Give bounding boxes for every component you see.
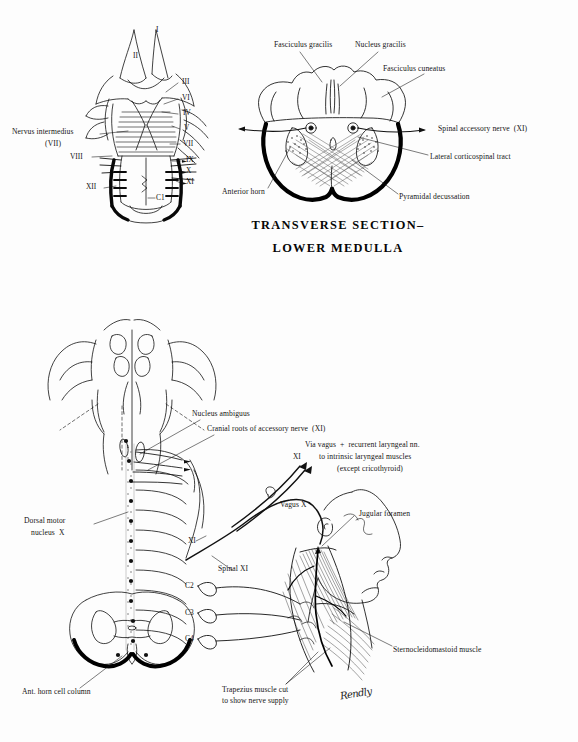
cn-label-III: III [182,77,189,86]
cn-label-I: I [156,25,158,34]
jugular-foramen-label: Jugular foramen [359,509,410,519]
ant-horn-cell-column-label: Ant. horn cell column [22,687,91,697]
cn-label-XI: XI [186,177,194,186]
cn-label-II: II [133,51,138,60]
nervus-intermedius-label: Nervus intermedius [12,127,73,137]
c2-label: C2 [185,581,194,590]
nucleus-ambiguus-label: Nucleus ambiguus [192,409,250,419]
via-vagus-line3: (except cricothyroid) [337,464,403,474]
c4-label: C4 [185,634,194,643]
cranial-roots-label: Cranial roots of accessory nerve (XI) [207,424,326,434]
figure-title-line2: LOWER MEDULLA [208,241,468,256]
lateral-corticospinal-tract-label: Lateral corticospinal tract [430,152,511,162]
cn-label-VIII: VIII [70,152,83,161]
c3-label: C3 [185,608,194,617]
spinal-XI-short-label: XI [188,536,196,545]
cn-label-IX: IX [186,155,194,164]
pyramidal-decussation-label: Pyramidal decussation [399,192,470,202]
illustration-page: I II III VI IV V VII IX X XI C1 Nervus i… [0,0,578,742]
nucleus-gracilis-label: Nucleus gracilis [355,40,406,50]
accessory-nerve-course-figure [48,319,401,688]
cranial-XI-label: XI [293,452,301,461]
cn-label-C1: C1 [156,193,165,202]
sternocleidomastoid-label: Sternocleidomastoid muscle [393,645,481,655]
trapezius-cut-line2: to show nerve supply [222,696,289,706]
anterior-horn-label: Anterior horn [222,187,265,197]
figure-title-line1: TRANSVERSE SECTION– [208,218,468,233]
via-vagus-line1: Via vagus + recurrent laryngeal nn. [305,440,420,450]
trapezius-cut-line1: Trapezius muscle cut [222,685,288,695]
cn-label-VII: VII [183,139,193,148]
plate-artwork [0,0,578,742]
cn-label-XII: XII [86,182,96,191]
dorsal-motor-nucleus-line2: nucleus X [31,528,64,538]
vagus-x-label: Vagus X [280,500,307,510]
dorsal-brainstem-figure [86,30,208,223]
spinal-XI-label: Spinal XI [218,564,248,574]
cn-label-X: X [186,166,191,175]
spinal-accessory-nerve-label: Spinal accessory nerve (XI) [438,124,527,134]
cn-label-IV: IV [183,108,191,117]
dorsal-motor-nucleus-line1: Dorsal motor [24,516,65,526]
cn-label-VI: VI [182,93,190,102]
fasciculus-gracilis-label: Fasciculus gracilis [274,40,332,50]
nervus-intermedius-sublabel: (VII) [45,139,61,149]
via-vagus-line2: to intrinsic laryngeal muscles [319,452,411,462]
fasciculus-cuneatus-label: Fasciculus cuneatus [383,64,445,74]
transverse-section-figure [238,52,428,200]
cn-label-V: V [184,123,189,132]
